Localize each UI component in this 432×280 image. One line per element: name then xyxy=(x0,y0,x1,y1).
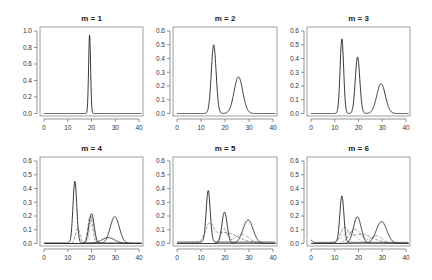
y-tick-label: 0.3 xyxy=(290,69,299,76)
y-tick-label: 0.6 xyxy=(290,157,299,164)
x-tick-label: 10 xyxy=(197,254,205,261)
density-curve xyxy=(311,229,408,243)
density-curves xyxy=(44,181,141,243)
y-tick-label: 0.4 xyxy=(290,55,299,62)
density-curve xyxy=(44,216,141,243)
x-tick-label: 40 xyxy=(402,124,410,131)
y-tick-label: 0.4 xyxy=(156,185,165,192)
figure: m = 10.00.20.40.60.81.0010203040 m = 20.… xyxy=(0,0,432,280)
y-tick-label: 0.2 xyxy=(290,82,299,89)
x-axis: 010203040 xyxy=(42,249,143,261)
plot-frame xyxy=(307,157,410,246)
x-tick-label: 20 xyxy=(355,124,363,131)
y-tick-label: 0.5 xyxy=(290,171,299,178)
plot-frame xyxy=(307,27,410,116)
x-tick-label: 0 xyxy=(175,254,179,261)
y-tick-label: 0.1 xyxy=(156,96,165,103)
y-tick-label: 0.2 xyxy=(23,93,32,100)
density-curves xyxy=(177,191,275,244)
panel-m4: m = 40.00.10.20.30.40.50.6010203040 xyxy=(23,144,143,261)
y-tick-label: 0.5 xyxy=(23,171,32,178)
panel-m1: m = 10.00.20.40.60.81.0010203040 xyxy=(23,14,143,131)
density-curve xyxy=(311,196,408,242)
y-tick-label: 0.4 xyxy=(290,185,299,192)
x-axis: 010203040 xyxy=(175,119,277,131)
y-tick-label: 0.0 xyxy=(290,240,299,247)
x-tick-label: 40 xyxy=(269,124,277,131)
y-tick-label: 0.3 xyxy=(156,199,165,206)
panel-title: m = 3 xyxy=(348,14,369,23)
y-tick-label: 0.3 xyxy=(156,69,165,76)
density-curve xyxy=(44,216,141,243)
x-tick-label: 10 xyxy=(197,124,205,131)
panel-title: m = 4 xyxy=(81,144,102,153)
density-curve xyxy=(44,181,141,243)
y-axis: 0.00.10.20.30.40.50.6 xyxy=(290,157,304,247)
x-tick-label: 40 xyxy=(269,254,277,261)
density-curves xyxy=(44,35,141,113)
x-tick-label: 40 xyxy=(402,254,410,261)
x-tick-label: 20 xyxy=(355,254,363,261)
x-tick-label: 40 xyxy=(135,254,143,261)
panel-title: m = 5 xyxy=(215,144,236,153)
density-curve xyxy=(311,217,408,244)
y-tick-label: 0.1 xyxy=(290,226,299,233)
y-tick-label: 0.5 xyxy=(290,41,299,48)
y-tick-label: 0.2 xyxy=(156,82,165,89)
y-tick-label: 0.3 xyxy=(23,199,32,206)
panel-m3: m = 30.00.10.20.30.40.50.6010203040 xyxy=(290,14,410,131)
x-tick-label: 0 xyxy=(309,254,313,261)
y-tick-label: 0.0 xyxy=(290,110,299,117)
y-axis: 0.00.10.20.30.40.50.6 xyxy=(156,27,170,117)
x-tick-label: 30 xyxy=(112,254,120,261)
y-tick-label: 0.0 xyxy=(23,240,32,247)
panel-m5: m = 50.00.10.20.30.40.50.6010203040 xyxy=(156,144,277,261)
panel-title: m = 1 xyxy=(81,14,102,23)
x-tick-label: 20 xyxy=(221,124,229,131)
x-tick-label: 30 xyxy=(112,124,120,131)
y-axis: 0.00.10.20.30.40.50.6 xyxy=(23,157,37,247)
y-tick-label: 0.1 xyxy=(290,96,299,103)
x-axis: 010203040 xyxy=(175,249,277,261)
chart-canvas: m = 10.00.20.40.60.81.0010203040 m = 20.… xyxy=(0,0,432,280)
plot-frame xyxy=(173,27,277,116)
x-tick-label: 20 xyxy=(221,254,229,261)
x-tick-label: 10 xyxy=(331,124,339,131)
y-axis: 0.00.10.20.30.40.50.6 xyxy=(290,27,304,117)
y-tick-label: 0.5 xyxy=(156,41,165,48)
y-tick-label: 0.0 xyxy=(23,110,32,117)
x-tick-label: 0 xyxy=(309,124,313,131)
y-tick-label: 0.3 xyxy=(290,199,299,206)
x-tick-label: 10 xyxy=(331,254,339,261)
panel-m2: m = 20.00.10.20.30.40.50.6010203040 xyxy=(156,14,277,131)
x-tick-label: 20 xyxy=(88,124,96,131)
y-tick-label: 1.0 xyxy=(23,27,32,34)
y-tick-label: 0.2 xyxy=(156,212,165,219)
density-curve xyxy=(311,227,408,243)
density-curves xyxy=(177,45,275,114)
x-tick-label: 20 xyxy=(88,254,96,261)
x-tick-label: 30 xyxy=(245,124,253,131)
y-tick-label: 0.1 xyxy=(156,226,165,233)
x-axis: 010203040 xyxy=(309,119,410,131)
x-tick-label: 0 xyxy=(42,124,46,131)
y-tick-label: 0.4 xyxy=(23,77,32,84)
density-curves xyxy=(311,196,408,244)
panel-m6: m = 60.00.10.20.30.40.50.6010203040 xyxy=(290,144,410,261)
plot-frame xyxy=(40,157,143,246)
x-tick-label: 0 xyxy=(175,124,179,131)
y-tick-label: 0.2 xyxy=(23,212,32,219)
y-tick-label: 0.8 xyxy=(23,44,32,51)
panel-title: m = 6 xyxy=(348,144,369,153)
density-curve xyxy=(177,45,275,114)
y-tick-label: 0.6 xyxy=(290,27,299,34)
y-tick-label: 0.1 xyxy=(23,226,32,233)
x-tick-label: 30 xyxy=(245,254,253,261)
x-tick-label: 10 xyxy=(64,254,72,261)
y-tick-label: 0.5 xyxy=(156,171,165,178)
y-tick-label: 0.6 xyxy=(23,60,32,67)
density-curve xyxy=(44,35,141,113)
x-axis: 010203040 xyxy=(42,119,143,131)
y-axis: 0.00.20.40.60.81.0 xyxy=(23,27,37,117)
density-curve xyxy=(177,212,275,243)
